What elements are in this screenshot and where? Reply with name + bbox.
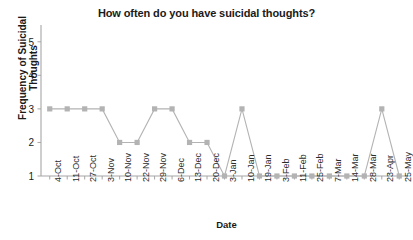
y-tick-label: 2 <box>12 137 34 148</box>
x-tick-label: 27-Oct <box>88 155 98 182</box>
chart-figure: How often do you have suicidal thoughts?… <box>0 0 413 240</box>
data-point <box>222 173 227 178</box>
x-tick-label: 25-May <box>403 152 413 182</box>
data-point <box>257 173 262 178</box>
x-tick-label: 3-Nov <box>106 158 116 182</box>
x-tick-label: 19-Jan <box>263 154 273 182</box>
data-point <box>397 173 402 178</box>
x-tick-label: 3-Feb <box>281 158 291 182</box>
x-tick-label: 14-Mar <box>350 153 360 182</box>
x-axis-label: Date <box>40 219 413 230</box>
data-point <box>169 106 174 111</box>
data-point <box>292 173 297 178</box>
series-line <box>50 109 400 176</box>
plot-area: 12345 4-Oct11-Oct27-Oct3-Nov10-Nov22-Nov… <box>41 25 408 176</box>
data-point <box>100 106 105 111</box>
x-tick-label: 20-Dec <box>211 153 221 182</box>
x-tick-label: 13-Dec <box>193 153 203 182</box>
data-point <box>344 173 349 178</box>
data-point <box>379 106 384 111</box>
data-point <box>362 173 367 178</box>
data-point <box>309 173 314 178</box>
x-tick-label: 23-Apr <box>385 155 395 182</box>
x-tick-label: 4-Oct <box>53 160 63 182</box>
data-point <box>82 106 87 111</box>
data-point <box>47 106 52 111</box>
x-tick-label: 10-Jan <box>246 154 256 182</box>
x-tick-label: 11-Feb <box>298 154 308 182</box>
y-tick-label: 1 <box>12 171 34 182</box>
chart-title: How often do you have suicidal thoughts? <box>0 7 413 19</box>
x-tick-label: 29-Nov <box>158 153 168 182</box>
data-point <box>239 106 244 111</box>
x-tick-label: 28-Mar <box>368 153 378 182</box>
data-point <box>135 140 140 145</box>
x-tick-label: 3-Jan <box>228 159 238 182</box>
x-tick-label: 6-Dec <box>176 158 186 182</box>
x-tick-label: 7-Mar <box>333 158 343 182</box>
y-tick-label: 5 <box>12 36 34 47</box>
data-point <box>274 173 279 178</box>
data-point <box>152 106 157 111</box>
x-tick-label: 10-Nov <box>123 153 133 182</box>
y-tick-label: 4 <box>12 70 34 81</box>
data-point <box>117 140 122 145</box>
data-point <box>187 140 192 145</box>
y-tick-label: 3 <box>12 103 34 114</box>
x-tick-label: 22-Nov <box>141 153 151 182</box>
series-markers <box>47 106 402 178</box>
data-point <box>65 106 70 111</box>
x-tick-label: 25-Feb <box>315 153 325 182</box>
x-tick-label: 11-Oct <box>71 156 81 182</box>
data-point <box>204 140 209 145</box>
data-point <box>327 173 332 178</box>
